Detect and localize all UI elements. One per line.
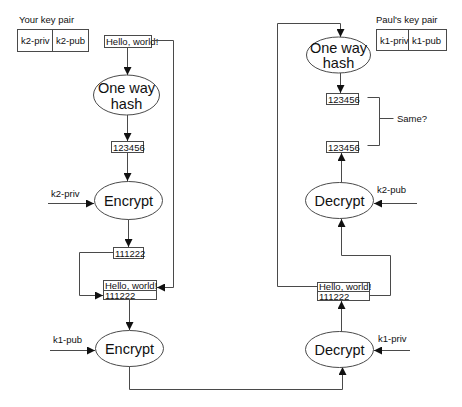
receiver-flow: Paul's key pair k1-priv k1-pub Decrypt k… bbox=[278, 14, 447, 368]
receiver-hash-node: One way hash bbox=[307, 37, 371, 73]
svg-text:123456: 123456 bbox=[328, 94, 360, 105]
your-key-pair-box: k2-priv k2-pub bbox=[18, 30, 89, 52]
sender-bundle-box: Hello, world! 111222 bbox=[104, 280, 158, 301]
svg-text:Hello, world!: Hello, world! bbox=[106, 36, 158, 47]
computed-hash-box: 123456 bbox=[327, 94, 360, 105]
svg-text:hash: hash bbox=[323, 55, 354, 71]
svg-text:One way: One way bbox=[310, 40, 368, 56]
transmission-arrow bbox=[130, 367, 343, 390]
hash-value-box: 123456 bbox=[112, 142, 145, 153]
svg-text:Encrypt: Encrypt bbox=[105, 341, 154, 357]
digital-signature-diagram: Your key pair k2-priv k2-pub Hello, worl… bbox=[0, 0, 462, 407]
svg-text:123456: 123456 bbox=[328, 142, 360, 153]
key-k1-pub: k1-pub bbox=[412, 35, 441, 46]
compare-bracket: Same? bbox=[368, 98, 428, 146]
svg-text:Decrypt: Decrypt bbox=[315, 342, 365, 358]
svg-text:111222: 111222 bbox=[105, 290, 135, 301]
message-box: Hello, world! bbox=[105, 36, 159, 48]
pauls-key-pair-box: k1-priv k1-pub bbox=[377, 30, 447, 51]
svg-text:123456: 123456 bbox=[113, 142, 145, 153]
sign-key-label: k2-priv bbox=[51, 188, 80, 199]
encrypt-key-label: k1-pub bbox=[53, 334, 82, 345]
sign-encrypt-node: Encrypt bbox=[95, 182, 163, 220]
message-bypass-arrow bbox=[152, 41, 174, 288]
svg-text:hash: hash bbox=[111, 96, 142, 112]
same-label: Same? bbox=[397, 113, 427, 124]
svg-text:111222: 111222 bbox=[319, 291, 349, 302]
svg-text:Decrypt: Decrypt bbox=[315, 193, 365, 209]
svg-text:One way: One way bbox=[98, 80, 156, 96]
receiver-bundle-box: Hello, world! 111222 bbox=[318, 281, 372, 302]
signature-box: 111222 bbox=[114, 248, 146, 259]
verify-key-label: k2-pub bbox=[377, 184, 406, 195]
sender-flow: Your key pair k2-priv k2-pub Hello, worl… bbox=[18, 14, 174, 367]
decrypted-hash-box: 123456 bbox=[327, 142, 360, 153]
decrypt-node: Decrypt bbox=[306, 332, 374, 368]
your-key-pair-title: Your key pair bbox=[19, 14, 74, 25]
decrypt-key-label: k1-priv bbox=[378, 333, 407, 344]
hash-node: One way hash bbox=[94, 75, 160, 115]
svg-text:111222: 111222 bbox=[115, 248, 145, 259]
encrypt-node: Encrypt bbox=[96, 331, 164, 367]
key-k2-priv: k2-priv bbox=[21, 35, 50, 46]
key-k1-priv: k1-priv bbox=[380, 35, 409, 46]
pauls-key-pair-title: Paul's key pair bbox=[376, 14, 437, 25]
svg-text:Encrypt: Encrypt bbox=[104, 193, 153, 209]
verify-decrypt-node: Decrypt bbox=[306, 183, 374, 219]
key-k2-pub: k2-pub bbox=[56, 35, 85, 46]
